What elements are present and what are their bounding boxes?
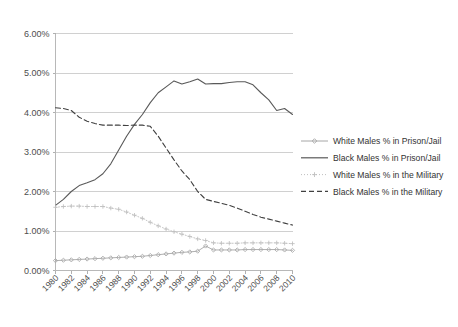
x-tick-label: 2000 bbox=[198, 273, 219, 294]
x-tick-label: 1996 bbox=[166, 273, 187, 294]
series-line bbox=[56, 108, 293, 225]
chart-container: 6.00%5.00%4.00%3.00%2.00%1.00%0.00% 1980… bbox=[0, 0, 458, 327]
line-chart: 6.00%5.00%4.00%3.00%2.00%1.00%0.00% 1980… bbox=[0, 0, 458, 327]
x-tick-label: 1998 bbox=[182, 273, 203, 294]
x-tick-label: 1984 bbox=[72, 273, 93, 294]
x-tick-label: 2006 bbox=[245, 273, 266, 294]
legend-item-3[interactable]: Black Males % in the Military bbox=[301, 187, 443, 197]
legend-label: White Males % in Prison/Jail bbox=[333, 136, 442, 146]
x-tick-label: 1986 bbox=[87, 273, 108, 294]
x-tick-label: 1980 bbox=[40, 273, 61, 294]
x-tick-label: 1994 bbox=[151, 273, 172, 294]
x-axis-labels: 1980198219841986198819901992199419961998… bbox=[40, 273, 298, 294]
series-line bbox=[56, 79, 293, 205]
y-tick-label: 1.00% bbox=[24, 226, 50, 236]
x-tick-label: 2010 bbox=[277, 273, 298, 294]
x-tick-label: 2008 bbox=[261, 273, 282, 294]
y-axis-labels: 6.00%5.00%4.00%3.00%2.00%1.00%0.00% bbox=[24, 29, 50, 276]
series-group bbox=[53, 79, 294, 263]
y-tick-label: 2.00% bbox=[24, 187, 50, 197]
y-tick-label: 4.00% bbox=[24, 108, 50, 118]
x-tick-label: 2002 bbox=[214, 273, 235, 294]
gridlines-group bbox=[56, 34, 293, 232]
legend-item-0[interactable]: White Males % in Prison/Jail bbox=[301, 136, 442, 146]
x-tick-label: 2004 bbox=[230, 273, 251, 294]
y-tick-label: 6.00% bbox=[24, 29, 50, 39]
y-tick-label: 3.00% bbox=[24, 147, 50, 157]
legend-label: Black Males % in Prison/Jail bbox=[333, 153, 441, 163]
series-3 bbox=[56, 108, 293, 225]
series-2 bbox=[53, 204, 294, 246]
legend-label: White Males % in the Military bbox=[333, 170, 444, 180]
legend-item-2[interactable]: White Males % in the Military bbox=[301, 170, 444, 180]
legend-label: Black Males % in the Military bbox=[333, 187, 443, 197]
y-tick-label: 5.00% bbox=[24, 68, 50, 78]
y-tick-label: 0.00% bbox=[24, 266, 50, 276]
x-tick-label: 1992 bbox=[135, 273, 156, 294]
legend-item-1[interactable]: Black Males % in Prison/Jail bbox=[301, 153, 441, 163]
x-tick-label: 1988 bbox=[103, 273, 124, 294]
legend: White Males % in Prison/JailBlack Males … bbox=[301, 136, 444, 196]
series-0 bbox=[53, 244, 294, 263]
x-tick-label: 1982 bbox=[56, 273, 77, 294]
x-tick-label: 1990 bbox=[119, 273, 140, 294]
series-line bbox=[56, 246, 293, 261]
series-line bbox=[56, 206, 293, 244]
series-1 bbox=[56, 79, 293, 205]
